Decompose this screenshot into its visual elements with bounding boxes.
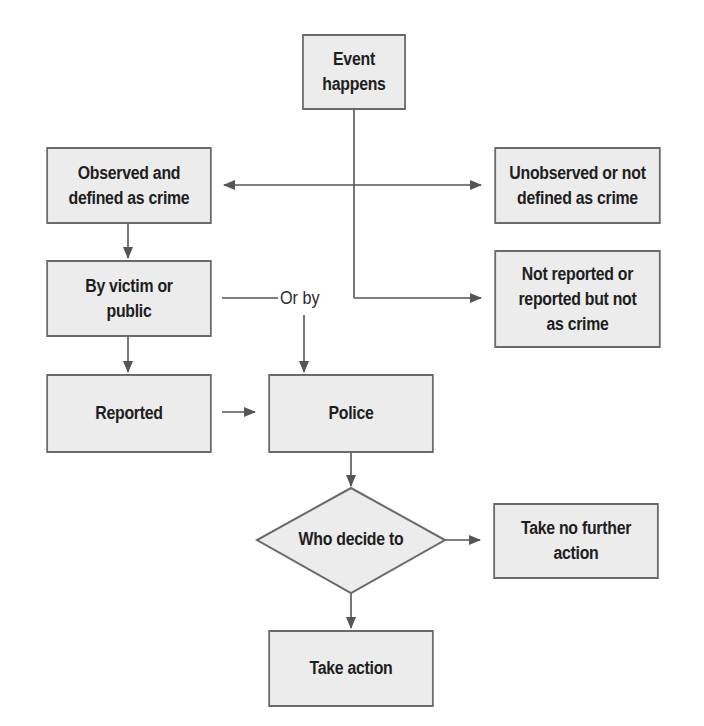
edge-label-or-by: Or by	[280, 288, 320, 308]
crime-reporting-flowchart: Event happens Observed and defined as cr…	[0, 0, 704, 726]
node-victim-label: By victim or public	[85, 274, 173, 324]
node-reported-label: Reported	[95, 401, 162, 426]
node-event-happens-label: Event happens	[322, 47, 385, 97]
node-reported: Reported	[46, 374, 211, 453]
node-not-reported: Not reported or reported but not as crim…	[494, 250, 660, 348]
node-no-action-label: Take no further action	[521, 516, 631, 566]
node-by-victim-or-public: By victim or public	[46, 260, 211, 337]
node-police-label: Police	[328, 401, 373, 426]
node-take-action: Take action	[268, 630, 433, 707]
node-observed-label: Observed and defined as crime	[69, 161, 190, 211]
node-event-happens: Event happens	[302, 34, 406, 110]
node-observed-defined-as-crime: Observed and defined as crime	[46, 147, 211, 224]
node-unobserved-not-crime: Unobserved or not defined as crime	[494, 147, 660, 224]
node-police: Police	[268, 374, 433, 453]
decision-who-decide-to-label: Who decide to	[268, 526, 433, 552]
node-take-action-label: Take action	[309, 656, 392, 681]
node-not-reported-label: Not reported or reported but not as crim…	[518, 262, 636, 337]
node-take-no-further-action: Take no further action	[493, 503, 658, 579]
node-unobserved-label: Unobserved or not defined as crime	[509, 161, 645, 211]
